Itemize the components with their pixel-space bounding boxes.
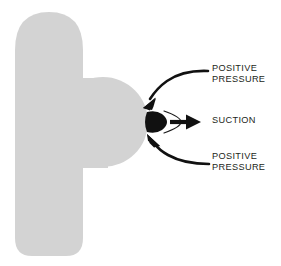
- label-positive-pressure-top-line1: POSITIVE: [212, 63, 265, 74]
- gray-body-profile: [15, 12, 148, 256]
- body-connector: [58, 78, 108, 168]
- arrow-positive-pressure-bottom: [147, 134, 209, 164]
- arrow-suction: [170, 115, 201, 130]
- diagram-canvas: [0, 0, 281, 266]
- label-positive-pressure-top-line2: PRESSURE: [212, 74, 265, 85]
- label-suction: SUCTION: [212, 115, 256, 126]
- arrow-pp-bottom-shaft: [155, 144, 209, 164]
- arrow-pp-top-shaft: [150, 71, 208, 99]
- label-positive-pressure-top: POSITIVE PRESSURE: [212, 63, 265, 86]
- label-positive-pressure-bottom-line1: POSITIVE: [212, 151, 265, 162]
- arrow-positive-pressure-top: [143, 71, 208, 111]
- black-tip-blob: [145, 111, 167, 132]
- label-suction-line1: SUCTION: [212, 115, 256, 126]
- arrow-suction-head: [186, 115, 201, 130]
- pressure-diagram: POSITIVE PRESSURE SUCTION POSITIVE PRESS…: [0, 0, 281, 266]
- tip-blob-body: [145, 111, 167, 132]
- label-positive-pressure-bottom: POSITIVE PRESSURE: [212, 151, 265, 174]
- label-positive-pressure-bottom-line2: PRESSURE: [212, 162, 265, 173]
